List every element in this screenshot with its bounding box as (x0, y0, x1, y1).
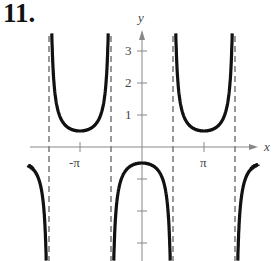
plot-area: xy123-ππ (0, 0, 274, 261)
y-axis-arrow (139, 30, 145, 40)
x-axis-label: x (263, 139, 270, 154)
x-tick-label: π (200, 155, 207, 170)
secant-curve (28, 165, 46, 260)
y-tick-label: 2 (125, 75, 132, 90)
y-tick-label: 3 (125, 43, 132, 58)
secant-curve (52, 33, 108, 131)
y-axis-label: y (136, 10, 144, 25)
secant-curve (238, 164, 258, 260)
x-tick-label: -π (69, 155, 80, 170)
x-axis-arrow (249, 144, 258, 150)
graph-figure: 11. xy123-ππ (0, 0, 274, 261)
secant-curve (176, 33, 232, 131)
y-tick-label: 1 (125, 107, 132, 122)
